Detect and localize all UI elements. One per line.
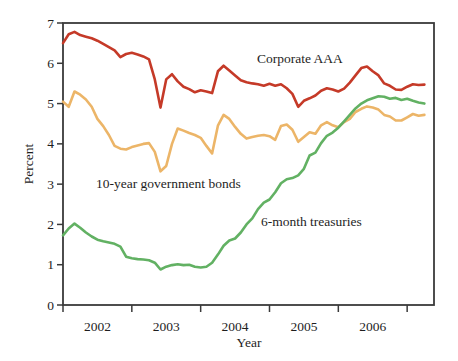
x-tick-label: 2006: [359, 319, 386, 334]
corporate-aaa-label: Corporate AAA: [257, 51, 343, 66]
corporate-aaa-line: [63, 32, 424, 108]
ten-year-bonds-label: 10-year government bonds: [96, 176, 241, 191]
y-tick-label: 2: [47, 217, 54, 232]
series-lines: [63, 32, 424, 270]
x-tick-label: 2005: [290, 319, 317, 334]
x-axis-ticks: [63, 305, 407, 312]
plot-frame: [63, 23, 434, 305]
y-tick-label: 1: [47, 257, 54, 272]
x-tick-label: 2004: [222, 319, 249, 334]
y-tick-label: 6: [47, 56, 54, 71]
y-tick-label: 4: [47, 136, 54, 151]
x-tick-label: 2003: [153, 319, 180, 334]
x-tick-label: 2002: [84, 319, 111, 334]
six-month-treasuries-label: 6-month treasuries: [261, 214, 362, 229]
y-tick-label: 5: [47, 96, 54, 111]
y-tick-label: 0: [47, 298, 54, 313]
x-axis-title: Year: [237, 335, 262, 350]
x-axis-tick-labels: 20022003200420052006: [84, 319, 387, 334]
y-axis-title: Percent: [21, 144, 36, 185]
figure-interest-rates: 01234567 20022003200420052006 Percent Ye…: [0, 0, 458, 361]
interest-rates-chart: 01234567 20022003200420052006 Percent Ye…: [0, 0, 458, 361]
y-tick-label: 7: [47, 16, 54, 31]
y-tick-label: 3: [47, 177, 54, 192]
y-axis-tick-labels: 01234567: [47, 16, 54, 313]
10-year-government-bonds-line: [63, 92, 424, 172]
